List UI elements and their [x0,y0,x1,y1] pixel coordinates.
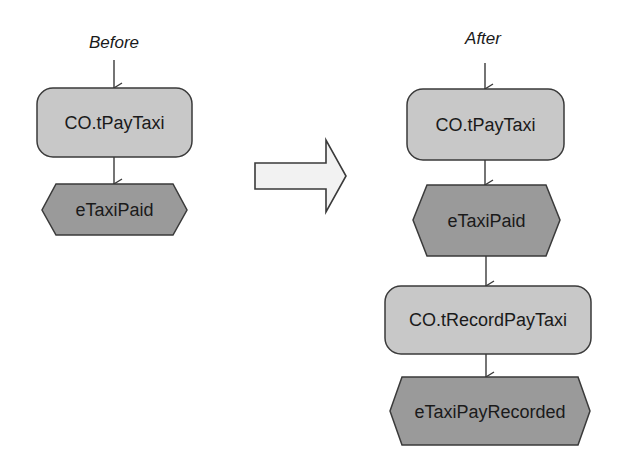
event-node-etaxipaid[interactable]: eTaxiPaid [413,185,560,256]
event-node-etaxipayrecorded[interactable]: eTaxiPayRecorded [390,377,590,445]
function-label: CO.tRecordPayTaxi [409,310,567,330]
event-label: eTaxiPaid [75,200,153,220]
after-caption: After [464,29,502,48]
after-diagram: After CO.tPayTaxi eTaxiPaid CO.tRecordPa… [385,29,591,445]
function-node-co-tpaytaxi[interactable]: CO.tPayTaxi [37,88,192,157]
event-node-etaxipaid[interactable]: eTaxiPaid [42,184,187,235]
function-node-co-tpaytaxi[interactable]: CO.tPayTaxi [407,89,564,160]
before-caption: Before [89,33,139,52]
function-node-co-trecordpaytaxi[interactable]: CO.tRecordPayTaxi [385,286,591,354]
function-label: CO.tPayTaxi [435,115,535,135]
right-arrow-icon [255,140,346,212]
function-label: CO.tPayTaxi [64,113,164,133]
before-diagram: Before CO.tPayTaxi eTaxiPaid [37,33,192,235]
event-label: eTaxiPaid [447,211,525,231]
event-label: eTaxiPayRecorded [414,402,565,422]
diagram-canvas: Before CO.tPayTaxi eTaxiPaid After CO.tP… [0,0,619,471]
